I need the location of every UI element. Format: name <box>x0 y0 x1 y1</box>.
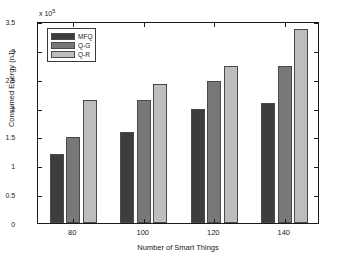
legend-item-q-g: Q-G <box>51 41 92 49</box>
x-tick-mark <box>144 219 145 223</box>
y-tick-mark <box>38 110 42 111</box>
x-tick-mark <box>285 219 286 223</box>
x-tick-label: 140 <box>264 228 304 237</box>
bar-q-g-120 <box>207 81 221 223</box>
y-tick-mark-right <box>314 23 318 24</box>
x-tick-mark <box>214 219 215 223</box>
chart-legend: MFQQ-GQ-R <box>47 28 96 62</box>
x-tick-mark-top <box>214 23 215 27</box>
y-tick-label: 3.5 <box>0 19 15 26</box>
y-tick-mark-right <box>314 110 318 111</box>
y-tick-mark <box>38 23 42 24</box>
x-tick-mark-top <box>285 23 286 27</box>
y-tick-mark <box>38 138 42 139</box>
legend-label: Q-R <box>78 51 90 58</box>
x-tick-mark-top <box>144 23 145 27</box>
y-axis-title: Consumed Energy (nJ) <box>7 0 16 179</box>
legend-item-mfq: MFQ <box>51 32 92 40</box>
legend-swatch <box>51 33 75 40</box>
bar-mfq-100 <box>120 132 134 223</box>
x-axis-title: Number of Smart Things <box>0 243 356 252</box>
legend-swatch <box>51 51 75 58</box>
y-tick-mark-right <box>314 196 318 197</box>
bar-group <box>120 23 167 223</box>
x-tick-mark-top <box>73 23 74 27</box>
y-tick-label: 0 <box>0 221 15 228</box>
legend-item-q-r: Q-R <box>51 50 92 58</box>
y-tick-mark <box>38 196 42 197</box>
bar-group <box>261 23 308 223</box>
y-tick-label: 1 <box>0 163 15 170</box>
x-tick-label: 100 <box>123 228 163 237</box>
y-tick-label: 0.5 <box>0 192 15 199</box>
y-tick-mark <box>38 52 42 53</box>
y-tick-mark-right <box>314 52 318 53</box>
bar-mfq-120 <box>191 109 205 223</box>
chart-figure: x 105 Consumed Energy (nJ) 00.511.522.53… <box>0 0 356 268</box>
y-tick-mark-right <box>314 167 318 168</box>
y-tick-mark-right <box>314 138 318 139</box>
y-tick-mark-right <box>314 81 318 82</box>
x-tick-label: 80 <box>52 228 92 237</box>
y-tick-mark <box>38 167 42 168</box>
bar-mfq-80 <box>50 154 64 223</box>
bar-q-r-100 <box>153 84 167 223</box>
bar-q-r-80 <box>83 100 97 223</box>
y-tick-label: 1.5 <box>0 134 15 141</box>
y-tick-label: 2.5 <box>0 76 15 83</box>
y-tick-label: 2 <box>0 105 15 112</box>
bar-group <box>191 23 238 223</box>
y-tick-mark <box>38 81 42 82</box>
bar-q-r-140 <box>294 29 308 223</box>
bar-q-g-100 <box>137 100 151 223</box>
bar-q-g-140 <box>278 66 292 223</box>
y-tick-label: 3 <box>0 47 15 54</box>
y-axis-exponent-label: x 105 <box>39 8 55 17</box>
x-tick-mark <box>73 219 74 223</box>
x-tick-label: 120 <box>193 228 233 237</box>
bar-q-r-120 <box>224 66 238 223</box>
bar-mfq-140 <box>261 103 275 223</box>
bar-q-g-80 <box>66 137 80 223</box>
legend-label: MFQ <box>78 33 92 40</box>
legend-swatch <box>51 42 75 49</box>
legend-label: Q-G <box>78 42 90 49</box>
